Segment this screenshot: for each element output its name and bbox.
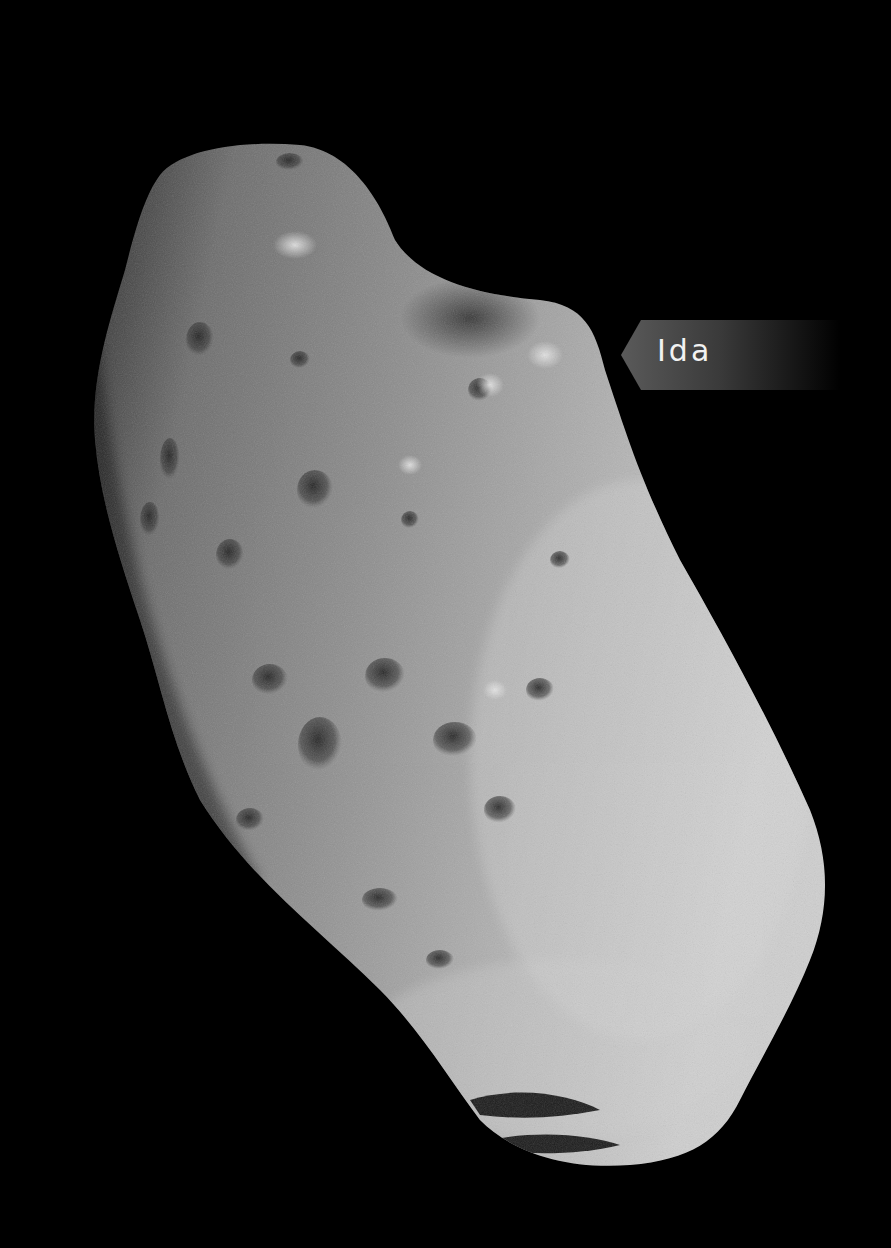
asteroid-name-label: Ida [621, 320, 841, 390]
label-arrow-shape [621, 320, 841, 390]
label-text: Ida [657, 333, 712, 368]
photo-stage: Ida [0, 0, 891, 1248]
asteroid-ida-image [0, 0, 891, 1248]
